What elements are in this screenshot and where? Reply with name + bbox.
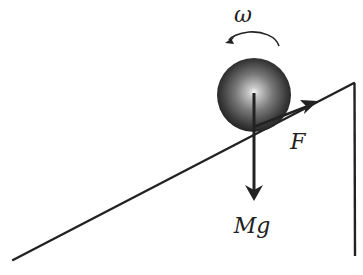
weight-label: Mg bbox=[233, 213, 271, 238]
rotation-arrowhead-icon bbox=[225, 36, 235, 44]
omega-label: ω bbox=[234, 2, 252, 27]
rotation-arrow bbox=[225, 32, 279, 46]
diagram-canvas: ω F Mg bbox=[0, 0, 363, 275]
friction-label: F bbox=[289, 129, 306, 154]
incline-diagram: ω F Mg bbox=[0, 0, 363, 275]
incline-vertical-side bbox=[355, 83, 356, 256]
incline-surface bbox=[13, 83, 354, 260]
